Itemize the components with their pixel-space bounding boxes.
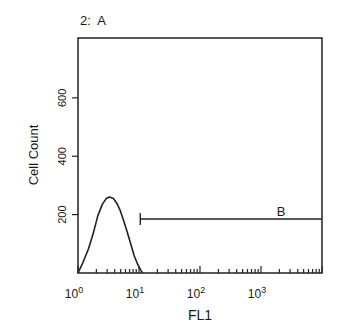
x-tick-label: 101 [126, 285, 144, 301]
chart-title: 2: A [80, 13, 106, 28]
x-tick-label: 102 [187, 285, 205, 301]
y-tick-label: 600 [56, 89, 68, 107]
plot-frame [78, 38, 322, 273]
plot-area: 100101102103200400600B [56, 38, 322, 301]
y-tick-label: 400 [56, 147, 68, 165]
x-tick-label: 100 [65, 285, 83, 301]
x-axis-label: FL1 [188, 307, 212, 323]
histogram-chart: 2: A 100101102103200400600B FL1 Cell Cou… [0, 0, 339, 334]
x-tick-label: 103 [248, 285, 266, 301]
histogram-line [78, 197, 143, 273]
y-axis-label: Cell Count [26, 124, 41, 185]
gate-label: B [277, 204, 286, 219]
y-tick-label: 200 [56, 205, 68, 223]
